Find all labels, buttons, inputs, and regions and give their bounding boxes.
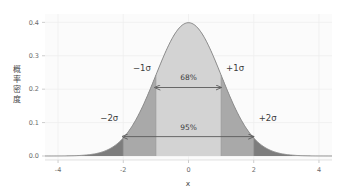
y-axis-title-char: 密 [13,84,21,94]
minus-2-sigma: −2σ [100,113,119,123]
x-tick-label: -4 [55,166,61,174]
plus-2-sigma: +2σ [259,113,278,123]
x-tick-label: 4 [317,166,321,174]
y-tick-label: 0.2 [29,85,39,93]
minus-1-sigma: −1σ [133,63,152,73]
pct-68: 68% [180,73,197,82]
y-axis-title-char: 度 [13,94,21,104]
x-axis-title: x [186,179,191,188]
y-axis-title-char: 率 [13,74,21,84]
chart-canvas: -4-2024 0.00.10.20.30.4 −1σ+1σ−2σ+2σ68%9… [0,0,362,191]
normal-distribution-figure: -4-2024 0.00.10.20.30.4 −1σ+1σ−2σ+2σ68%9… [0,0,362,191]
y-tick-label: 0.4 [29,19,39,27]
y-axis-title-char: 概 [13,64,21,74]
plus-1-sigma: +1σ [226,63,245,73]
x-tick-label: 2 [252,166,256,174]
y-tick-label: 0.3 [29,52,39,60]
x-tick-label: -2 [120,166,126,174]
x-tick-label: 0 [186,166,190,174]
y-tick-label: 0.1 [29,119,39,127]
y-tick-label: 0.0 [29,152,39,160]
pct-95: 95% [180,123,197,132]
